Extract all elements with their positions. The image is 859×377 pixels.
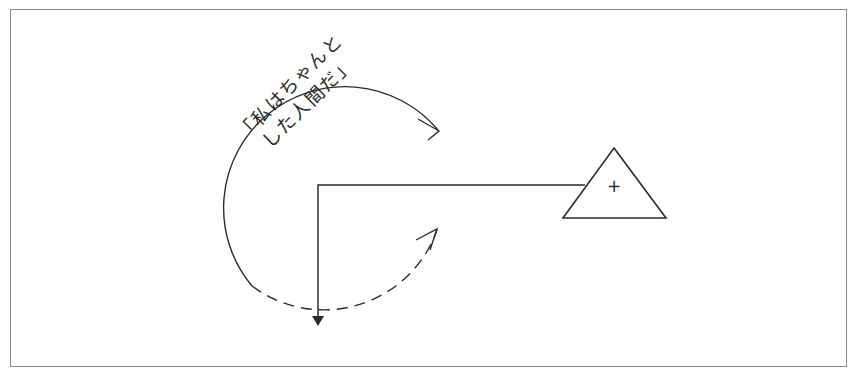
diagram-canvas: + xyxy=(0,0,859,377)
connector-line xyxy=(318,185,585,317)
triangle-plus-symbol: + xyxy=(607,176,621,196)
arc-arrowhead-bottom-icon xyxy=(416,229,437,250)
down-arrowhead-icon xyxy=(312,316,324,326)
loop-arc-dashed xyxy=(252,230,437,310)
arc-arrowhead-top-icon xyxy=(418,119,439,140)
